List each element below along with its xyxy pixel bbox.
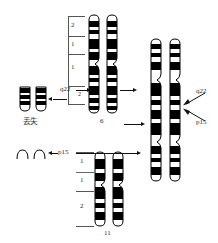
chromosome-11-name: 11 <box>104 230 111 237</box>
chr6-break-arrow-line <box>120 90 134 91</box>
chr6-tick-b <box>68 54 85 55</box>
chromosome-11 <box>92 151 126 229</box>
derivative-label-q22: q22 <box>196 88 207 95</box>
chr11-tick-a <box>76 172 94 173</box>
chr6-band-label-1-upper: 1 <box>71 41 75 48</box>
lost-top-arrow-line <box>53 99 67 100</box>
transition-arrow-line <box>124 124 142 125</box>
chr11-tick-b <box>76 191 94 192</box>
chr11-band-label-1-mid: 1 <box>80 177 84 184</box>
chr6-tick-top <box>68 16 85 17</box>
derivative-label-p15: p15 <box>196 119 207 126</box>
chr6-breakpoint-label-q22: q22 <box>60 86 71 93</box>
chromosome-6 <box>86 14 120 116</box>
lost-fragments-label: 丢失 <box>23 118 37 126</box>
chr11-tick-bottom <box>76 226 94 227</box>
chr11-p15-arrow-head <box>137 151 141 155</box>
diagram-canvas: 2 1 1 2 q22 6 <box>0 0 218 243</box>
chr11-band-label-1-upper: 1 <box>80 158 84 165</box>
transition-arrow-head <box>141 122 145 126</box>
derivative-chromosome <box>148 38 184 184</box>
chr6-break-arrow-head <box>133 88 137 92</box>
lost-fragment-pair-bottom <box>15 148 47 162</box>
lost-top-arrow-head <box>48 97 52 101</box>
chr6-band-label-2: 2 <box>71 22 75 29</box>
chr6-band-label-2-lower: 2 <box>78 91 81 97</box>
chr11-p15-line <box>76 153 138 154</box>
chr6-band-label-1-lower: 1 <box>71 64 75 71</box>
chr6-tick-bottom <box>68 104 85 105</box>
chromosome-6-name: 6 <box>100 118 104 125</box>
lost-fragment-pair-top <box>18 86 48 114</box>
chr11-breakpoint-label-p15: p15 <box>58 149 69 156</box>
chr6-q22-arrow-head <box>87 88 91 92</box>
chr11-band-label-2-lower: 2 <box>80 203 84 210</box>
chr6-tick-a <box>68 36 85 37</box>
chr11-p15-left-line <box>52 153 58 154</box>
